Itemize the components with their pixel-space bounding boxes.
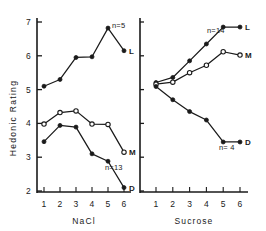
y-tick-label: 7 (26, 17, 31, 27)
suc-data-point-L (238, 25, 242, 29)
nacl-data-point-M (58, 110, 62, 114)
suc-series-L-line (156, 27, 240, 82)
x-tick-label: 1 (154, 199, 159, 209)
suc-data-point-M (204, 63, 208, 67)
x-tick-label: 3 (187, 199, 192, 209)
nacl-data-point-L (122, 49, 126, 53)
suc-series-label-L: L (245, 23, 250, 32)
panel-nacl: 765432 123456 LMDn=5n=13 NaCl (26, 17, 136, 226)
x-tick-label: 4 (90, 199, 95, 209)
sucrose-series-group (154, 25, 242, 144)
x-tick-label: 3 (74, 199, 79, 209)
suc-series-D-line (156, 87, 240, 142)
nacl-data-point-M (74, 109, 78, 113)
nacl-data-point-D (90, 152, 94, 156)
nacl-data-point-D (42, 140, 46, 144)
y-tick-label: 3 (26, 152, 31, 162)
y-tick-label: 5 (26, 85, 31, 95)
nacl-data-point-L (90, 55, 94, 59)
sucrose-annotations: LMDn=14n= 4 (207, 23, 252, 152)
suc-data-point-L (204, 42, 208, 46)
chart-canvas: Hedonic Rating 765432 123456 LMDn=5n=13 … (0, 0, 266, 231)
suc-data-point-L (171, 75, 175, 79)
suc-data-point-D (171, 98, 175, 102)
suc-data-point-M (187, 71, 191, 75)
x-tick-label: 5 (221, 199, 226, 209)
suc-n-label-L: n=14 (207, 26, 225, 35)
nacl-series-label-D: D (129, 184, 135, 193)
x-tick-label: 4 (204, 199, 209, 209)
nacl-data-point-L (58, 77, 62, 81)
panel-sucrose: 123456 LMDn=14n= 4 Sucrose (140, 18, 252, 226)
nacl-data-point-L (42, 84, 46, 88)
nacl-data-point-L (106, 26, 110, 30)
hedonic-rating-figure: Hedonic Rating 765432 123456 LMDn=5n=13 … (0, 0, 266, 231)
suc-data-point-D (204, 118, 208, 122)
nacl-y-ticks: 765432 (26, 17, 42, 196)
suc-data-point-M (238, 53, 242, 57)
x-tick-label: 1 (42, 199, 47, 209)
nacl-n-label-L: n=5 (112, 21, 125, 30)
suc-series-label-D: D (245, 138, 251, 147)
nacl-n-label-D: n=13 (105, 163, 123, 172)
nacl-data-point-M (106, 122, 110, 126)
sucrose-x-ticks: 123456 (154, 187, 243, 209)
suc-data-point-M (221, 50, 225, 54)
sucrose-x-axis-title: Sucrose (175, 216, 214, 226)
nacl-series-M-line (44, 111, 124, 152)
suc-data-point-D (238, 140, 242, 144)
nacl-data-point-D (58, 123, 62, 127)
nacl-data-point-M (42, 122, 46, 126)
suc-n-label-D: n= 4 (219, 143, 235, 152)
x-tick-label: 2 (170, 199, 175, 209)
suc-data-point-D (188, 110, 192, 114)
nacl-series-D-line (44, 125, 124, 187)
nacl-x-axis-title: NaCl (72, 216, 95, 226)
x-tick-label: 5 (106, 199, 111, 209)
nacl-series-L-line (44, 28, 124, 86)
y-tick-label: 4 (26, 118, 31, 128)
nacl-series-label-L: L (129, 47, 134, 56)
nacl-x-ticks: 123456 (42, 187, 127, 209)
nacl-data-point-D (122, 186, 126, 190)
y-tick-label: 2 (26, 186, 31, 196)
suc-series-label-M: M (245, 51, 252, 60)
suc-data-point-D (154, 85, 158, 89)
y-tick-label: 6 (26, 51, 31, 61)
x-tick-label: 6 (122, 199, 127, 209)
x-tick-label: 2 (58, 199, 63, 209)
nacl-series-label-M: M (129, 148, 136, 157)
suc-data-point-M (171, 80, 175, 84)
nacl-data-point-M (122, 150, 126, 154)
suc-data-point-L (188, 59, 192, 63)
nacl-data-point-D (74, 125, 78, 129)
y-axis-title: Hedonic Rating (8, 80, 18, 156)
nacl-data-point-M (90, 122, 94, 126)
x-tick-label: 6 (238, 199, 243, 209)
nacl-data-point-L (74, 55, 78, 59)
